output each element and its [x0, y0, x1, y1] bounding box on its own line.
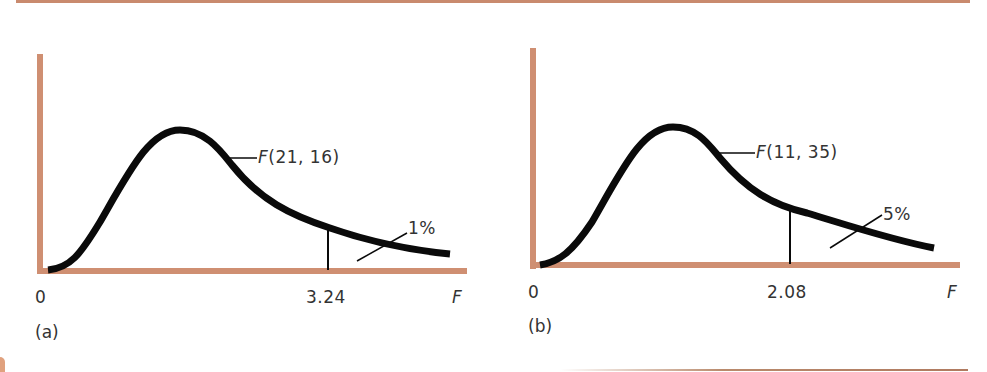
curve-label-args: (21, 16) — [268, 147, 339, 167]
origin-tick-label: 0 — [35, 287, 46, 307]
origin-tick-label: 0 — [528, 282, 539, 302]
curve-label-args: (11, 35) — [766, 142, 837, 162]
curve-label-prefix: F — [756, 142, 766, 162]
critical-value-label: 2.08 — [767, 282, 807, 302]
x-axis-label-text: F — [452, 287, 462, 307]
bottom-border-rule — [560, 369, 968, 371]
page-corner-mark — [0, 357, 5, 372]
panel-caption: (b) — [528, 316, 552, 336]
tail-area-label: 1% — [408, 218, 436, 238]
curve-label-prefix: F — [258, 147, 268, 167]
curve-label: F(11, 35) — [756, 142, 838, 162]
chart-panel-a: F(21, 16) 1% 0 3.24 F (a) — [0, 0, 490, 372]
curve-label: F(21, 16) — [258, 147, 340, 167]
density-curve — [48, 130, 450, 270]
chart-b-plot — [497, 0, 987, 372]
x-axis-label-text: F — [947, 282, 957, 302]
x-axis-label: F — [452, 287, 462, 307]
tail-area-label: 5% — [883, 204, 911, 224]
chart-panel-b: F(11, 35) 5% 0 2.08 F (b) — [497, 0, 987, 372]
density-curve — [540, 127, 934, 265]
panel-caption: (a) — [35, 322, 59, 342]
chart-a-plot — [0, 0, 490, 372]
critical-value-label: 3.24 — [306, 287, 346, 307]
x-axis-label: F — [947, 282, 957, 302]
